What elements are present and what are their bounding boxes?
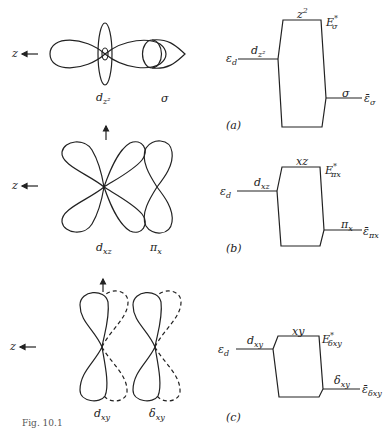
- antibonding-label-b: E*πx: [325, 163, 341, 179]
- z-axis-label-b: z: [12, 180, 18, 191]
- sigma-ligand-orbital: [152, 40, 185, 69]
- level-epsilon-pix: ε̄πx: [363, 226, 379, 240]
- panel-label-a: (a): [226, 120, 241, 131]
- orbital-dxy-c: dxy: [247, 335, 263, 349]
- level-epsilon-d-a: εd: [226, 53, 237, 67]
- panel-c-orbitals: [20, 279, 181, 401]
- sigma-ligand-sphere: [143, 40, 162, 68]
- right-orbital-b: πx: [341, 219, 353, 233]
- orbital-diagram-canvas: [0, 0, 392, 429]
- orbital-label-dxy: dxy: [94, 408, 110, 422]
- z-axis-label-a: z: [12, 48, 18, 59]
- level-epsilon-delta: ε̄δxy: [362, 384, 382, 398]
- dz2-lobe-left: [50, 40, 105, 68]
- z-axis-label-c: z: [10, 341, 16, 352]
- panel-b-orbitals: [22, 126, 172, 233]
- level-epsilon-d-c: εd: [218, 344, 229, 358]
- panel-a-energy-diagram: [238, 20, 362, 127]
- pi-x-orbital: [144, 141, 172, 233]
- top-label-c: xy: [292, 326, 304, 337]
- right-orbital-a: σ: [342, 88, 350, 99]
- arrowhead-icon: [22, 52, 27, 57]
- dz2-lobe-right: [105, 40, 166, 67]
- orbital-dz2-a: dz²: [251, 45, 265, 59]
- orbital-label-pix: πx: [150, 242, 162, 256]
- orbital-label-delta: δxy: [149, 408, 165, 422]
- level-epsilon-d-b: εd: [220, 186, 231, 200]
- level-epsilon-sigma: ε̄σ: [364, 93, 375, 107]
- antibonding-label-c: E*δxy: [322, 332, 342, 348]
- orbital-label-sigma: σ: [161, 93, 169, 104]
- top-label-a: z2: [297, 7, 308, 20]
- figure-caption: Fig. 10.1: [22, 418, 63, 428]
- antibonding-label-a: E*σ: [326, 15, 338, 31]
- orbital-label-dxz: dxz: [96, 242, 112, 256]
- top-label-b: xz: [296, 156, 308, 167]
- panel-label-b: (b): [226, 243, 242, 254]
- panel-label-c: (c): [226, 412, 241, 423]
- orbital-dxz-b: dxz: [254, 177, 270, 191]
- orbital-label-dz2: dz²: [96, 92, 110, 106]
- panel-a-orbitals: [22, 23, 185, 85]
- right-orbital-c: δxy: [334, 375, 350, 389]
